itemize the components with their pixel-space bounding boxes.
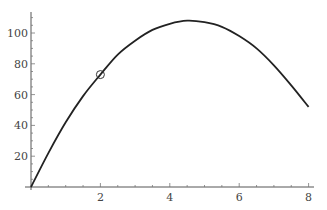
x-tick-label: 6 bbox=[236, 191, 243, 204]
y-tick-label: 80 bbox=[14, 58, 28, 71]
x-tick-label: 2 bbox=[97, 191, 104, 204]
y-tick-label: 60 bbox=[14, 89, 28, 102]
line-chart: 20406080100 2468 bbox=[0, 0, 327, 210]
data-line bbox=[31, 21, 309, 187]
y-tick-label: 40 bbox=[14, 119, 28, 132]
x-axis: 2468 bbox=[25, 183, 314, 204]
x-tick-label: 8 bbox=[305, 191, 312, 204]
y-tick-label: 20 bbox=[14, 150, 28, 163]
y-tick-label: 100 bbox=[7, 27, 28, 40]
y-axis: 20406080100 bbox=[7, 12, 35, 190]
x-tick-label: 4 bbox=[166, 191, 173, 204]
